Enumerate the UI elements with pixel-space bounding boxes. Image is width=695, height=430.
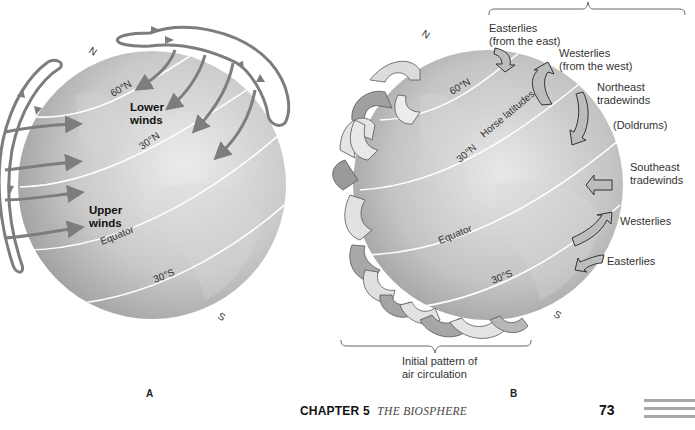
page-rule: [644, 399, 695, 402]
panel-label-a: A: [146, 388, 153, 399]
label-westerlies-north: Westerlies(from the west): [559, 47, 632, 73]
pole-s-a: S: [216, 310, 228, 323]
page-number: 73: [599, 402, 615, 418]
label-easterlies-north: Easterlies(from the east): [489, 22, 561, 48]
page-rule-decoration: [644, 399, 695, 423]
pole-s-b: S: [552, 308, 564, 321]
bottom-brace: [341, 340, 531, 353]
upper-winds-label: Upperwinds: [89, 204, 122, 230]
page-rule: [644, 407, 695, 410]
panel-label-b: B: [510, 388, 517, 399]
lower-winds-label: Lowerwinds: [130, 101, 164, 127]
footer-chapter: CHAPTER 5 THE BIOSPHERE: [300, 404, 467, 418]
globe-a: N 60°N 30°N Equator 30°S S: [0, 26, 290, 323]
page-rule: [644, 415, 695, 418]
bottom-brace-caption: Initial pattern ofair circulation: [402, 355, 477, 381]
chapter-title: THE BIOSPHERE: [377, 405, 467, 417]
label-doldrums: (Doldrums): [613, 119, 667, 132]
globe-b: N 60°N 30°N Horse latitudes Equator 30°S…: [333, 28, 625, 339]
pole-n-a: N: [87, 45, 99, 58]
top-brace: [489, 2, 685, 15]
label-ne-tradewinds: Northeasttradewinds: [597, 81, 650, 107]
label-easterlies-south: Easterlies: [607, 255, 655, 268]
pole-n-b: N: [420, 28, 432, 41]
chapter-label: CHAPTER 5: [300, 404, 370, 418]
label-westerlies-south: Westerlies: [620, 215, 671, 228]
label-se-tradewinds: Southeasttradewinds: [630, 161, 683, 187]
